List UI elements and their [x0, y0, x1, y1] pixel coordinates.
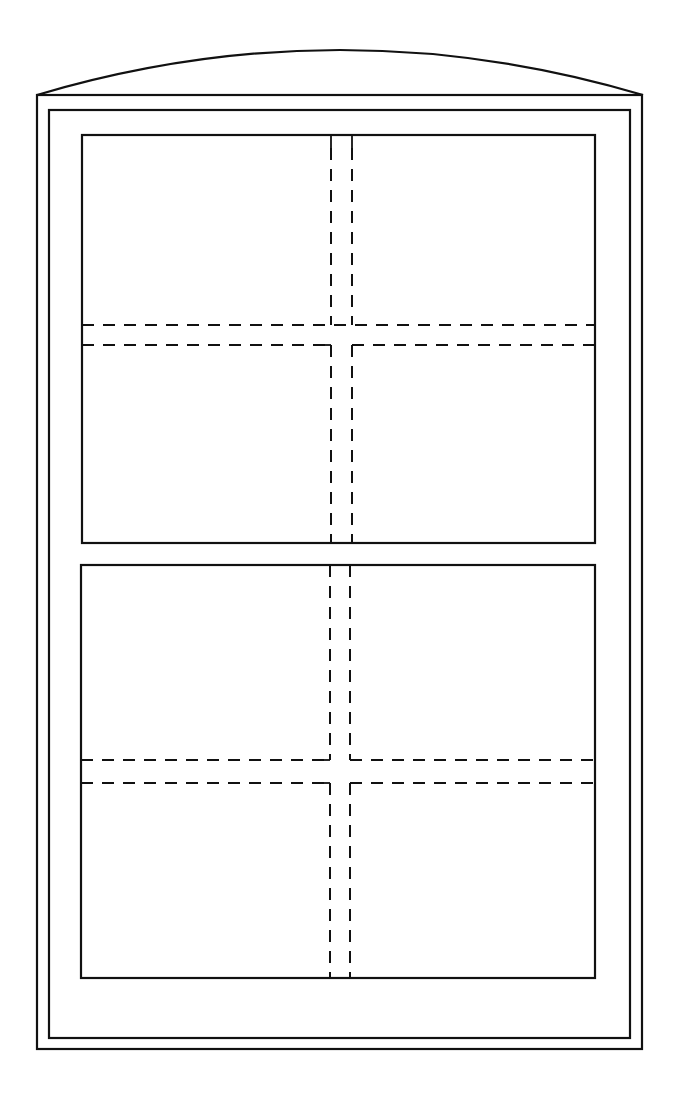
- outer-frame: [37, 95, 642, 1049]
- inner-frame: [49, 110, 630, 1038]
- upper-sash-outline: [82, 135, 595, 543]
- upper-sash: [82, 135, 595, 543]
- window-diagram: [0, 0, 675, 1103]
- lower-sash: [81, 565, 595, 978]
- arch-head: [37, 50, 643, 95]
- lower-sash-outline: [81, 565, 595, 978]
